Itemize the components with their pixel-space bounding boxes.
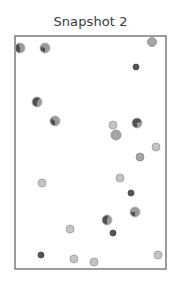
scatter-plot xyxy=(0,0,181,288)
data-point xyxy=(32,97,42,107)
data-point xyxy=(111,130,121,140)
data-points xyxy=(15,38,162,267)
data-point xyxy=(116,174,124,182)
data-point xyxy=(154,251,162,259)
data-point xyxy=(15,43,25,53)
data-point xyxy=(128,190,134,196)
data-point xyxy=(50,116,60,126)
data-point xyxy=(90,258,98,266)
data-point xyxy=(130,207,140,217)
data-point xyxy=(40,43,50,53)
data-point xyxy=(38,252,44,258)
data-point xyxy=(152,143,160,151)
data-point xyxy=(38,179,46,187)
data-point xyxy=(70,255,78,263)
data-point xyxy=(102,215,112,225)
data-point xyxy=(148,38,157,47)
data-point xyxy=(136,153,144,161)
data-point xyxy=(133,64,139,70)
data-point xyxy=(109,121,117,129)
data-point xyxy=(66,225,74,233)
data-point xyxy=(132,118,142,128)
data-point xyxy=(110,230,116,236)
plot-frame xyxy=(15,36,166,269)
